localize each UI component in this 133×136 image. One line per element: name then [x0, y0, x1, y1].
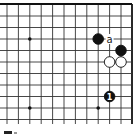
hoshi-point — [28, 37, 32, 41]
diagram-caption-glyph-2 — [14, 132, 17, 134]
point-label-a: a — [107, 34, 113, 45]
go-board: a1 — [0, 0, 133, 136]
diagram-caption-glyph — [4, 131, 12, 134]
hoshi-point — [96, 106, 100, 110]
black-stone — [93, 34, 104, 45]
hoshi-point — [28, 106, 32, 110]
stone-move-number: 1 — [107, 93, 113, 102]
black-stone — [116, 45, 127, 56]
white-stone — [116, 57, 127, 68]
white-stone — [104, 57, 115, 68]
